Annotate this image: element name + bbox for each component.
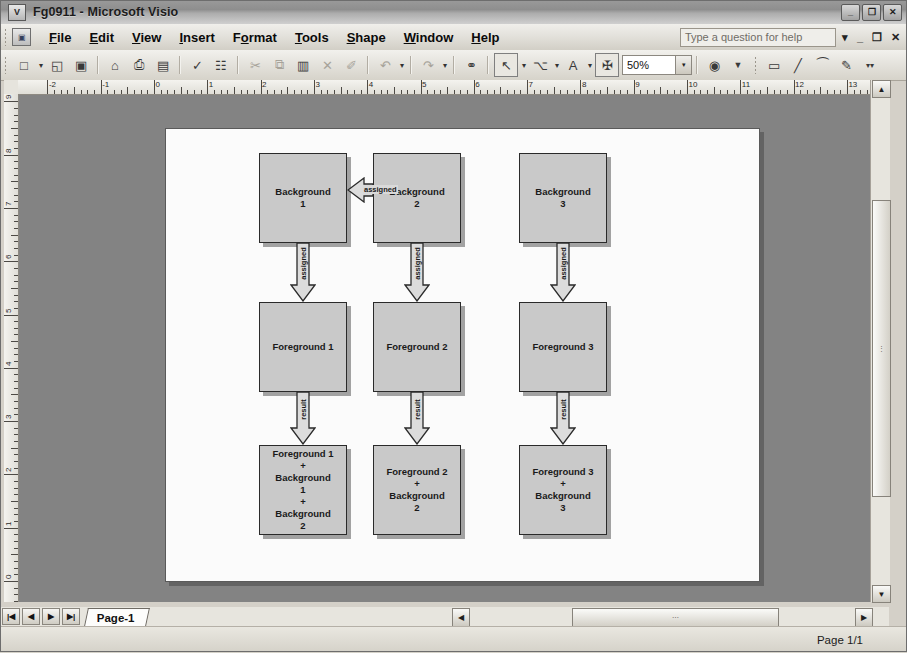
save-button[interactable]: ▣ [70, 54, 92, 76]
new-document-button[interactable]: □ [13, 54, 35, 76]
undo-dropdown-button[interactable]: ▾ [397, 61, 406, 70]
ruler-label: 3 [5, 415, 13, 419]
line-tool-button[interactable]: ╱ [787, 54, 809, 76]
ruler-minor-tick [14, 321, 18, 322]
close-button[interactable]: ✕ [883, 4, 902, 21]
spelling-button[interactable]: ✓ [186, 54, 208, 76]
delete-button[interactable]: ✕ [316, 54, 338, 76]
shape-bg2[interactable]: Background2 [373, 153, 461, 243]
menu-format[interactable]: Format [224, 28, 286, 47]
pointer-tool-button[interactable]: ↖ [494, 53, 518, 77]
connector-dropdown-button[interactable]: ▾ [552, 61, 561, 70]
scroll-left-button[interactable]: ◀ [452, 608, 470, 627]
next-page-button[interactable]: ▶ [42, 608, 60, 625]
document-restore-button[interactable]: ❐ [869, 31, 885, 44]
scroll-up-button[interactable]: ▲ [872, 80, 891, 98]
help-question-input[interactable]: Type a question for help [680, 28, 836, 47]
horizontal-scroll-thumb[interactable]: ⋯ [572, 608, 779, 627]
drawing-canvas[interactable]: Background1Background2Background3Foregro… [19, 95, 870, 602]
freeform-tool-button[interactable]: ✠ [595, 53, 619, 77]
menu-file[interactable]: File [40, 28, 80, 47]
arc-tool-button[interactable]: ⏜ [811, 54, 833, 76]
scroll-right-button[interactable]: ▶ [855, 608, 873, 627]
last-page-button[interactable]: ▶| [62, 608, 80, 625]
connector-tool-button[interactable]: ⌥ [529, 54, 551, 76]
menu-drag-handle[interactable] [4, 28, 7, 46]
restore-button[interactable]: ❐ [862, 4, 881, 21]
redo-button[interactable]: ↷ [417, 54, 439, 76]
zoom-input[interactable]: 50% [622, 55, 676, 75]
document-close-button[interactable]: ✕ [888, 31, 903, 44]
shape-bg1[interactable]: Background1 [259, 153, 347, 243]
shape-res1[interactable]: Foreground 1+Background1+Background2 [259, 445, 347, 535]
zoom-dropdown-icon[interactable]: ▾ [676, 55, 692, 75]
page-tab-bar: |◀ ◀ ▶ ▶| Page-1 [0, 607, 452, 626]
help-dropdown-icon[interactable]: ▾ [839, 31, 851, 44]
paste-button[interactable]: ▥ [292, 54, 314, 76]
copy-button[interactable]: ⧉ [268, 54, 290, 76]
menu-edit[interactable]: Edit [80, 28, 123, 47]
cut-button[interactable]: ✂ [244, 54, 266, 76]
text-tool-button[interactable]: A [562, 54, 584, 76]
ruler-minor-tick [14, 428, 18, 429]
toolbar-more-button[interactable]: ▾▾ [859, 54, 881, 76]
menu-shape[interactable]: Shape [338, 28, 395, 47]
shape-text-line: Background [275, 186, 330, 198]
toolbar-drag-handle[interactable] [4, 56, 7, 74]
page-tab-page-1[interactable]: Page-1 [84, 608, 150, 626]
vertical-scroll-thumb[interactable]: ⋮ [872, 200, 891, 497]
drawing-page[interactable]: Background1Background2Background3Foregro… [165, 128, 760, 582]
shape-fg3[interactable]: Foreground 3 [519, 302, 607, 392]
document-minimize-button[interactable]: _ [854, 31, 866, 43]
ruler-minor-tick [14, 308, 18, 309]
ruler-minor-tick [381, 90, 382, 94]
open-button[interactable]: ◱ [46, 54, 68, 76]
pencil-tool-button[interactable]: ✎ [835, 54, 857, 76]
print-button[interactable]: ⎙ [128, 54, 150, 76]
ruler-corner[interactable] [4, 80, 19, 95]
ruler-minor-tick [11, 501, 18, 502]
menu-insert[interactable]: Insert [170, 28, 223, 47]
ruler-minor-tick [14, 514, 18, 515]
vertical-ruler[interactable]: 9876543210 [4, 94, 19, 602]
ruler-minor-tick [11, 341, 18, 342]
shape-res2[interactable]: Foreground 2+Background2 [373, 445, 461, 535]
first-page-button[interactable]: |◀ [2, 608, 20, 625]
shape-fg2[interactable]: Foreground 2 [373, 302, 461, 392]
menu-view[interactable]: View [123, 28, 170, 47]
shape-text-line: Background [389, 186, 444, 198]
redo-dropdown-button[interactable]: ▾ [440, 61, 449, 70]
menu-tools[interactable]: Tools [286, 28, 338, 47]
research-button[interactable]: ☷ [210, 54, 232, 76]
format-painter-button[interactable]: ✐ [340, 54, 362, 76]
ruler-minor-tick [534, 90, 535, 94]
ruler-minor-tick [814, 90, 815, 94]
vertical-scrollbar[interactable]: ▲ ⋮ ▼ [870, 80, 890, 602]
menu-window[interactable]: Window [395, 28, 463, 47]
ruler-tick [4, 528, 18, 529]
shape-res3[interactable]: Foreground 3+Background3 [519, 445, 607, 535]
ruler-minor-tick [121, 90, 122, 94]
menu-help[interactable]: Help [462, 28, 508, 47]
ruler-minor-tick [440, 90, 441, 94]
undo-button[interactable]: ↶ [374, 54, 396, 76]
pointer-dropdown-button[interactable]: ▾ [519, 61, 528, 70]
toolbar-overflow-button[interactable]: ▼ [727, 54, 749, 76]
rectangle-tool-button[interactable]: ▭ [763, 54, 785, 76]
shape-bg3[interactable]: Background3 [519, 153, 607, 243]
minimize-button[interactable]: _ [841, 4, 860, 21]
drawing-toolbar-drag-handle[interactable] [754, 56, 757, 74]
previous-page-button[interactable]: ◀ [22, 608, 40, 625]
help-round-button[interactable]: ◉ [703, 54, 725, 76]
hyperlink-button[interactable]: ⚭ [460, 54, 482, 76]
horizontal-ruler[interactable]: -2-1012345678910111213 [18, 80, 889, 95]
ruler-label: 10 [689, 81, 698, 89]
permission-button[interactable]: ⌂ [104, 54, 126, 76]
print-preview-button[interactable]: ▤ [152, 54, 174, 76]
scroll-down-button[interactable]: ▼ [872, 585, 891, 603]
horizontal-scrollbar[interactable]: ◀ ⋯ ▶ [452, 607, 889, 626]
ruler-label: 11 [742, 81, 750, 89]
shape-fg1[interactable]: Foreground 1 [259, 302, 347, 392]
new-dropdown-button[interactable]: ▾ [36, 61, 45, 70]
text-dropdown-button[interactable]: ▾ [585, 61, 594, 70]
